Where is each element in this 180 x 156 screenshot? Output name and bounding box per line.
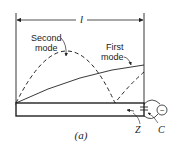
transmission-line-bar: [16, 103, 144, 116]
first-mode-label-line2: mode: [101, 52, 124, 62]
c-label: C: [158, 124, 165, 135]
length-label: l: [80, 13, 83, 25]
figure-caption: (a): [75, 129, 88, 142]
second-mode-leader: [61, 38, 66, 56]
first-mode-label-line1: First: [106, 42, 124, 52]
second-mode-label-line2: mode: [35, 43, 58, 53]
second-mode-label-line1: Second: [31, 33, 62, 43]
second-mode-curve: [16, 51, 144, 103]
standing-wave-diagram: l Second mode First mode ~ Z C (a): [0, 0, 180, 156]
first-mode-leader: [124, 57, 131, 65]
ac-source-symbol: ~: [160, 106, 165, 115]
z-label: Z: [135, 124, 141, 135]
